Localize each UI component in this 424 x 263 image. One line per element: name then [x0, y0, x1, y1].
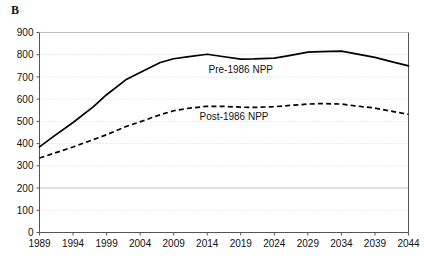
x-tick-label: 2034 [330, 238, 353, 249]
y-tick-label: 900 [17, 27, 34, 38]
x-tick-label: 2009 [163, 238, 186, 249]
y-tick-label: 800 [17, 49, 34, 60]
x-tick-label: 1994 [62, 238, 85, 249]
x-tick-label: 2004 [129, 238, 152, 249]
x-tick-label: 2014 [196, 238, 219, 249]
y-tick-label: 300 [17, 160, 34, 171]
x-axis-tick-labels: 1989199419992004200920142019202420292034… [28, 238, 420, 249]
y-tick-label: 100 [17, 205, 34, 216]
y-tick-label: 600 [17, 94, 34, 105]
x-tick-label: 2044 [397, 238, 420, 249]
axis-lines-path [40, 33, 409, 233]
x-tick-label: 2024 [263, 238, 286, 249]
line-chart-svg: 0100200300400500600700800900 19891994199… [0, 0, 424, 263]
series-label-1: Pre-1986 NPP [209, 64, 274, 75]
y-tick-label: 400 [17, 138, 34, 149]
chart-plot-area: 0100200300400500600700800900 19891994199… [0, 0, 424, 263]
series-label-2: Post-1986 NPP [200, 111, 269, 122]
x-tick-label: 1999 [95, 238, 118, 249]
y-tick-label: 700 [17, 72, 34, 83]
axis-lines [40, 33, 409, 233]
y-tick-label: 200 [17, 183, 34, 194]
x-tick-label: 2019 [230, 238, 253, 249]
y-tick-label: 0 [28, 227, 34, 238]
chart-page: B 0100200300400500600700800900 198919941… [0, 0, 424, 263]
y-axis-tick-labels: 0100200300400500600700800900 [17, 27, 34, 238]
y-tick-label: 500 [17, 116, 34, 127]
x-tick-label: 2029 [297, 238, 320, 249]
series-annotations: Pre-1986 NPPPost-1986 NPP [200, 64, 274, 123]
x-tick-label: 1989 [28, 238, 51, 249]
x-tick-label: 2039 [364, 238, 387, 249]
